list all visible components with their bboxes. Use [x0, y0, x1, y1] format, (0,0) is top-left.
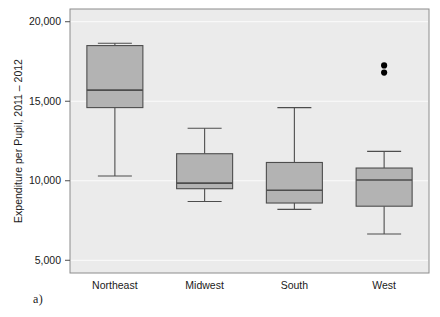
- x-axis-category-labels: NortheastMidwestSouthWest: [92, 279, 396, 291]
- x-axis-label-south: South: [281, 279, 309, 291]
- x-axis-label-midwest: Midwest: [185, 279, 224, 291]
- y-tick-label-20000: 20,000: [29, 15, 61, 27]
- box-iqr-rect: [356, 168, 412, 206]
- y-tick-label-15000: 15,000: [29, 95, 61, 107]
- y-axis-title: Expenditure per Pupil, 2011 – 2012: [12, 59, 24, 223]
- box-plot-chart: 5,00010,00015,00020,000 NortheastMidwest…: [0, 0, 440, 317]
- outlier-point-2: [381, 70, 387, 76]
- y-tick-label-10000: 10,000: [29, 174, 61, 186]
- box-iqr-rect: [87, 46, 143, 108]
- figure-panel: 5,00010,00015,00020,000 NortheastMidwest…: [0, 0, 440, 317]
- x-axis-label-west: West: [372, 279, 396, 291]
- y-tick-label-5000: 5,000: [35, 254, 61, 266]
- box-iqr-rect: [266, 162, 322, 203]
- x-axis-label-northeast: Northeast: [92, 279, 138, 291]
- figure-caption: a): [33, 292, 43, 307]
- outlier-point-1: [381, 62, 387, 68]
- y-axis: 5,00010,00015,00020,000: [29, 15, 70, 266]
